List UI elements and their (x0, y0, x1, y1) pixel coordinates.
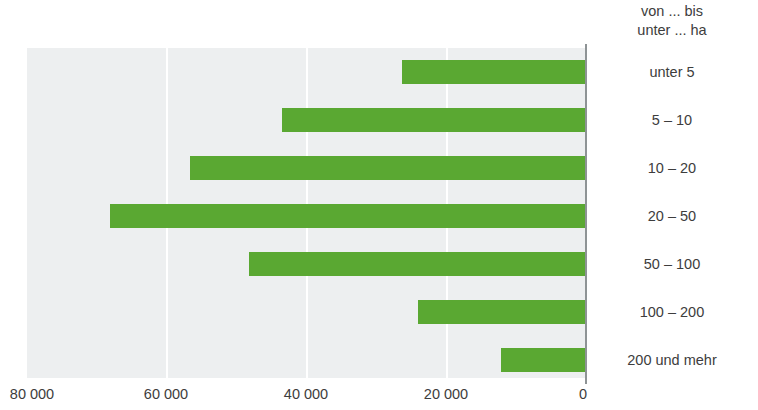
category-label-200-und-mehr: 200 und mehr (596, 351, 748, 369)
x-tick-label-80000: 80 000 (10, 384, 54, 404)
x-tick-label-60000: 60 000 (144, 384, 188, 404)
zero-axis-line (585, 44, 587, 384)
category-label-unter-5: unter 5 (596, 63, 748, 81)
category-label-50-100: 50 – 100 (596, 255, 748, 273)
x-tick-label-20000: 20 000 (424, 384, 468, 404)
category-legend-column: von ... bis unter ... ha unter 5 5 – 10 … (596, 0, 758, 410)
bar-20-50[interactable] (110, 204, 585, 228)
bar-unter-5[interactable] (402, 60, 585, 84)
bar-5-10[interactable] (282, 108, 585, 132)
chart-plot-area (27, 48, 585, 378)
category-label-10-20: 10 – 20 (596, 159, 748, 177)
category-label-5-10: 5 – 10 (596, 111, 748, 129)
bar-50-100[interactable] (249, 252, 585, 276)
x-tick-label-0: 0 (579, 384, 587, 404)
x-tick-label-40000: 40 000 (284, 384, 328, 404)
category-label-100-200: 100 – 200 (596, 303, 748, 321)
bar-10-20[interactable] (190, 156, 585, 180)
legend-header: von ... bis unter ... ha (596, 2, 748, 40)
x-axis-tick-labels: 80 000 60 000 40 000 20 000 0 (0, 384, 600, 408)
category-label-20-50: 20 – 50 (596, 207, 748, 225)
bar-100-200[interactable] (418, 300, 585, 324)
bar-200-und-mehr[interactable] (501, 348, 585, 372)
